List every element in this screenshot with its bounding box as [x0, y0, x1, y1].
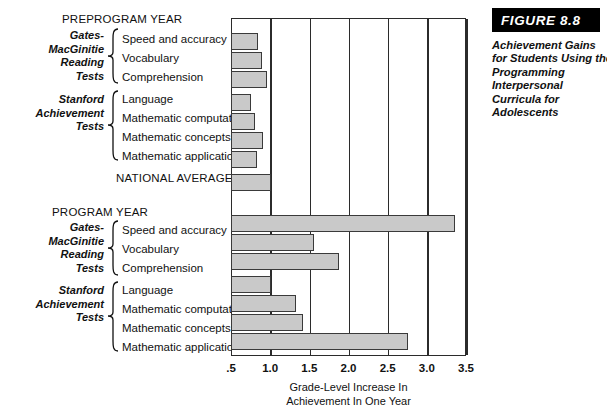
figure-caption-text: Achievement Gains for Students Using the…	[492, 39, 600, 119]
brace-stanford-preprogram	[107, 90, 119, 162]
gridline-2.0	[349, 19, 350, 355]
row-label-prog-math-concepts: Mathematic concepts	[122, 322, 231, 335]
figure-number-label: FIGURE 8.8	[501, 13, 581, 28]
x-tick-2.0: 2.0	[341, 362, 357, 374]
stanford-line-3-b: Tests	[0, 311, 104, 325]
x-tick-.5: .5	[226, 362, 236, 374]
stanford-line-3: Tests	[0, 120, 104, 134]
row-label-prog-comprehension: Comprehension	[122, 262, 203, 275]
bar-program-year-mathematic-computation	[231, 295, 296, 312]
gates-line-4: Tests	[0, 70, 104, 84]
program-year-heading: PROGRAM YEAR	[52, 206, 148, 218]
row-label-prog-math-applications: Mathematic applications	[122, 341, 245, 354]
row-label-pre-math-computation: Mathematic computation	[122, 112, 247, 125]
bar-preprogram-year-mathematic-concepts	[231, 132, 263, 149]
stanford-group-name-preprogram: Stanford Achievement Tests	[0, 93, 104, 134]
row-label-pre-vocabulary: Vocabulary	[122, 52, 179, 65]
brace-gates-program	[107, 220, 119, 276]
figure-caption-box: FIGURE 8.8 Achievement Gains for Student…	[492, 8, 600, 119]
x-tick-3.5: 3.5	[458, 362, 474, 374]
x-tick-3.0: 3.0	[419, 362, 435, 374]
bar-national-average-national-average	[231, 174, 271, 191]
bar-program-year-speed-and-accuracy	[231, 215, 455, 232]
bar-preprogram-year-mathematic-computation	[231, 113, 255, 130]
gates-line-3-b: Reading	[0, 248, 104, 262]
row-label-prog-language: Language	[122, 284, 173, 297]
bar-program-year-vocabulary	[231, 234, 314, 251]
figure-root: PREPROGRAM YEAR Gates- MacGinitie Readin…	[0, 0, 607, 415]
x-axis-title: Grade-Level Increase In Achievement In O…	[231, 381, 466, 408]
caption-line-4: Interpersonal	[492, 79, 600, 92]
gates-line-1-b: Gates-	[0, 221, 104, 235]
gridline-2.5	[388, 19, 389, 355]
bar-preprogram-year-speed-and-accuracy	[231, 33, 258, 50]
row-label-prog-speed-accuracy: Speed and accuracy	[122, 224, 227, 237]
bar-program-year-language	[231, 276, 271, 293]
gates-line-4-b: Tests	[0, 262, 104, 276]
row-label-pre-comprehension: Comprehension	[122, 71, 203, 84]
stanford-line-2-b: Achievement	[0, 298, 104, 312]
caption-line-5: Curricula for	[492, 93, 600, 106]
bar-preprogram-year-mathematic-applications	[231, 151, 257, 168]
national-average-label: NATIONAL AVERAGE	[116, 172, 233, 184]
gates-line-2: MacGinitie	[0, 43, 104, 57]
chart-plot-area	[231, 18, 466, 356]
x-tick-1.5: 1.5	[301, 362, 317, 374]
gridline-3.0	[427, 19, 428, 355]
gates-line-3: Reading	[0, 56, 104, 70]
gates-line-1: Gates-	[0, 29, 104, 43]
gates-group-name-program: Gates- MacGinitie Reading Tests	[0, 221, 104, 275]
stanford-line-1: Stanford	[0, 93, 104, 107]
row-label-pre-speed-accuracy: Speed and accuracy	[122, 33, 227, 46]
x-axis-tick-labels: .51.01.52.02.53.03.5	[0, 360, 500, 378]
figure-number-band: FIGURE 8.8	[492, 8, 600, 32]
bar-program-year-comprehension	[231, 253, 339, 270]
row-label-prog-math-computation: Mathematic computation	[122, 303, 247, 316]
brace-gates-preprogram	[107, 28, 119, 84]
label-column: PREPROGRAM YEAR Gates- MacGinitie Readin…	[0, 0, 231, 360]
axis-title-line-2: Achievement In One Year	[231, 395, 466, 409]
stanford-line-2: Achievement	[0, 107, 104, 121]
brace-stanford-program	[107, 281, 119, 353]
bar-preprogram-year-comprehension	[231, 71, 267, 88]
gates-line-2-b: MacGinitie	[0, 235, 104, 249]
x-tick-1.0: 1.0	[262, 362, 278, 374]
caption-line-2: for Students Using the	[492, 52, 600, 65]
bar-program-year-mathematic-applications	[231, 333, 408, 350]
preprogram-year-heading: PREPROGRAM YEAR	[62, 13, 182, 25]
axis-title-line-1: Grade-Level Increase In	[231, 381, 466, 395]
gridline-3.5	[466, 19, 467, 355]
row-label-pre-math-concepts: Mathematic concepts	[122, 131, 231, 144]
caption-line-1: Achievement Gains	[492, 39, 600, 52]
caption-line-6: Adolescents	[492, 106, 600, 119]
stanford-line-1-b: Stanford	[0, 284, 104, 298]
stanford-group-name-program: Stanford Achievement Tests	[0, 284, 104, 325]
bar-program-year-mathematic-concepts	[231, 314, 303, 331]
gridline-1.5	[310, 19, 311, 355]
gates-group-name-preprogram: Gates- MacGinitie Reading Tests	[0, 29, 104, 83]
bar-preprogram-year-language	[231, 94, 251, 111]
row-label-prog-vocabulary: Vocabulary	[122, 243, 179, 256]
bar-preprogram-year-vocabulary	[231, 52, 262, 69]
row-label-pre-math-applications: Mathematic applications	[122, 150, 245, 163]
row-label-pre-language: Language	[122, 93, 173, 106]
x-tick-2.5: 2.5	[380, 362, 396, 374]
caption-line-3: Programming	[492, 66, 600, 79]
